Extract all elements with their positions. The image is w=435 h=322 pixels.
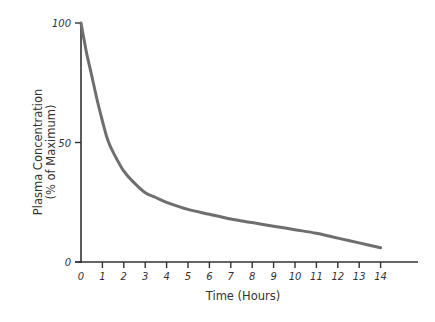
tick-marks: [75, 23, 381, 268]
y-axis-title-line-2: (% of Maximum): [44, 105, 58, 200]
x-tick-label: 5: [185, 271, 191, 282]
x-tick-label: 14: [374, 271, 387, 282]
x-tick-label: 7: [228, 271, 235, 282]
plasma-concentration-chart: Time (Hours) Plasma Concentration (% of …: [0, 0, 435, 322]
x-tick-label: 10: [289, 271, 302, 282]
y-tick-label: 50: [58, 138, 71, 149]
x-tick-label: 12: [331, 271, 344, 282]
y-axis-title: Plasma Concentration (% of Maximum): [31, 89, 58, 215]
y-tick-label: 100: [52, 18, 71, 29]
x-tick-label: 4: [163, 271, 169, 282]
x-tick-label: 3: [142, 271, 148, 282]
concentration-curve: [81, 23, 381, 248]
x-tick-label: 2: [121, 271, 127, 282]
axes: [75, 23, 418, 263]
x-tick-label: 6: [206, 271, 212, 282]
x-tick-label: 8: [249, 271, 255, 282]
x-tick-label: 0: [78, 271, 84, 282]
x-tick-label: 9: [270, 271, 276, 282]
x-tick-label: 11: [310, 271, 323, 282]
x-axis-title: Time (Hours): [205, 289, 280, 303]
y-tick-label: 0: [65, 257, 71, 268]
chart-canvas: Time (Hours) Plasma Concentration (% of …: [0, 0, 435, 322]
y-axis-title-line-1: Plasma Concentration: [31, 89, 45, 215]
x-tick-label: 13: [353, 271, 366, 282]
x-tick-label: 1: [99, 271, 105, 282]
